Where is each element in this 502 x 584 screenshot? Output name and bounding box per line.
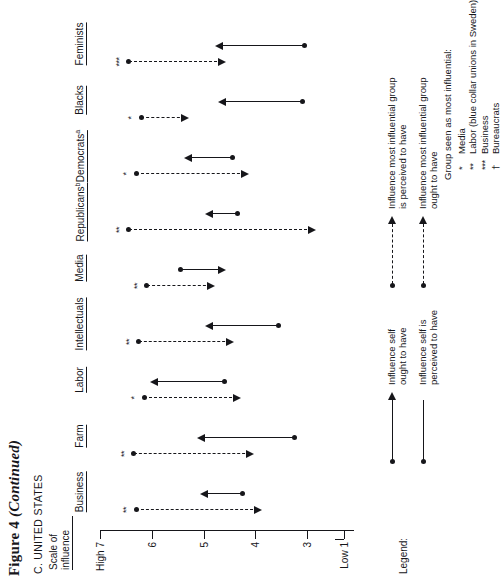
category-footnote-marker: b: [74, 183, 81, 187]
group-legend-item: †Bureaucrats: [490, 0, 502, 170]
legend-item-text: Influence self isperceived to have: [417, 310, 439, 385]
range-start-dot: [230, 156, 235, 161]
y-axis-tick-label: 3: [302, 542, 313, 548]
category-column-democrats: *: [96, 138, 358, 194]
legend-item: Influence self isperceived to have: [417, 298, 439, 466]
range-end-arrowhead: [197, 434, 205, 442]
category-header-business: Business: [74, 472, 87, 513]
range-start-dot: [126, 60, 131, 65]
y-axis-tick: [307, 530, 308, 539]
group-legend-item: ***Business: [479, 0, 491, 170]
range-shaft: [134, 453, 251, 454]
panel-label: C. UNITED STATES: [32, 475, 44, 575]
group-symbol-legend: Group seen as most influential: *Media**…: [442, 0, 502, 180]
y-axis-tick: [204, 530, 205, 539]
category-label: Intellectuals: [74, 298, 85, 351]
category-header-feminists: Feminists: [74, 23, 87, 66]
legend-line-icon: [392, 400, 393, 460]
group-legend-label: Labor (blue collar unions in Sweden): [467, 0, 478, 154]
range-end-arrowhead: [218, 98, 226, 106]
category-column-feminists: ***: [96, 26, 358, 82]
group-legend-marker: **: [467, 154, 479, 170]
range-end-arrowhead: [181, 114, 189, 122]
range-end-arrowhead: [218, 58, 226, 66]
range-end-arrowhead: [207, 282, 215, 290]
range-start-dot: [178, 268, 183, 273]
legend-column-left: Influence selfought to haveInfluence sel…: [386, 298, 448, 466]
range-start-dot: [302, 44, 307, 49]
legend-column-right: Influence most influential groupis perce…: [386, 40, 448, 290]
y-axis-tick: [100, 530, 101, 539]
range-shaft: [188, 157, 232, 158]
most-influential-group-marker: *: [131, 396, 137, 399]
y-axis-line: [100, 530, 354, 531]
range-shaft: [141, 117, 185, 118]
range-shaft: [201, 437, 294, 438]
y-axis-tick-label: High 7: [95, 542, 106, 571]
figure-title-continued: (Continued): [6, 440, 22, 517]
figure-title-main: Figure 4: [6, 521, 22, 576]
range-end-arrowhead: [205, 322, 213, 330]
group-legend-label: Media: [456, 128, 467, 154]
plot-area: High 76543Low 1 BusinessFarmLaborIntelle…: [74, 10, 374, 574]
category-label: Labor: [74, 367, 85, 393]
range-start-dot: [144, 284, 149, 289]
category-column-intellectuals: **: [96, 306, 358, 362]
legend-item-line1: Influence self is: [417, 320, 428, 385]
most-influential-group-marker: **: [134, 283, 140, 289]
legend-item-line2: is perceived to have: [397, 125, 408, 210]
range-shaft: [136, 509, 258, 510]
legend-item-line1: Influence most influential group: [386, 78, 397, 210]
range-end-arrowhead: [184, 154, 192, 162]
group-legend-marker: ***: [479, 154, 491, 170]
category-label: Media: [74, 254, 85, 281]
range-end-arrowhead: [241, 170, 249, 178]
legend-arrowhead-icon: [388, 392, 396, 400]
y-axis-break: [335, 529, 344, 540]
range-start-dot: [300, 100, 305, 105]
category-column-labor: *: [96, 362, 358, 418]
legend-item-line2: ought to have: [428, 151, 439, 209]
legend-line-icon: [392, 224, 393, 284]
most-influential-group-marker: *: [123, 172, 129, 175]
group-legend-marker: *: [456, 154, 468, 170]
category-column-media: **: [96, 250, 358, 306]
category-footnote-marker: a: [74, 130, 81, 134]
category-label: Feminists: [74, 23, 85, 66]
category-header-blacks: Blacks: [74, 85, 87, 114]
range-start-dot: [136, 340, 141, 345]
range-end-arrowhead: [218, 266, 226, 274]
range-shaft: [180, 269, 221, 270]
y-axis-tick: [152, 530, 153, 539]
y-axis-title: Scale of influence: [48, 516, 73, 570]
y-axis-tick-label: 4: [250, 542, 261, 548]
range-shaft: [209, 325, 279, 326]
y-axis-tick-label: 6: [146, 542, 157, 548]
category-header-labor: Labor: [74, 367, 87, 393]
most-influential-group-marker: **: [121, 451, 127, 457]
range-start-dot: [235, 212, 240, 217]
range-shaft: [144, 397, 237, 398]
range-start-dot: [292, 436, 297, 441]
legend-item-text: Influence most influential groupought to…: [417, 78, 439, 210]
range-start-dot: [134, 172, 139, 177]
group-legend-list: *Media**Labor (blue collar unions in Swe…: [456, 0, 502, 180]
category-header-media: Media: [74, 254, 87, 281]
range-end-arrowhead: [200, 490, 208, 498]
range-start-dot: [134, 508, 139, 513]
category-label: Farm: [74, 424, 85, 447]
most-influential-group-marker: **: [116, 227, 122, 233]
range-end-arrowhead: [150, 378, 158, 386]
legend-arrowhead-icon: [419, 216, 427, 224]
y-axis-title-underline: [72, 516, 73, 570]
category-header-intellectuals: Intellectuals: [74, 298, 87, 351]
group-legend-label: Business: [479, 115, 490, 154]
range-shaft: [147, 285, 212, 286]
y-axis-tick-label: 5: [198, 542, 209, 548]
group-legend-label: Bureaucrats: [490, 103, 501, 154]
group-legend-heading: Group seen as most influential:: [442, 0, 454, 180]
category-label: Blacks: [74, 85, 85, 114]
category-column-blacks: *: [96, 82, 358, 138]
y-axis-title-line1: Scale of: [48, 534, 59, 570]
range-end-arrowhead: [215, 42, 223, 50]
